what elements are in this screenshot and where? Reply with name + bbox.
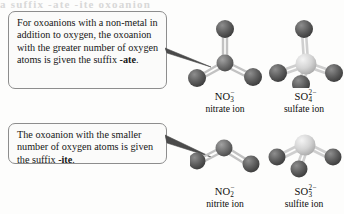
oxygen-atom (269, 64, 287, 82)
nitrate-label-block: NO−3 nitrate ion (185, 89, 265, 114)
nitrogen-atom (217, 55, 234, 72)
sulfite-subscript: 3 (308, 189, 312, 201)
nitrogen-atom (216, 140, 233, 157)
sulfate-ion-model (268, 16, 344, 88)
oxygen-atom (295, 20, 313, 38)
oxygen-atom (190, 153, 206, 170)
sulfite-ion-name: sulfite ion (264, 198, 344, 209)
sulfate-formula: SO2−4 (264, 89, 344, 103)
nitrate-ion-name: nitrate ion (185, 103, 265, 114)
oxygen-atom (292, 75, 310, 88)
sulfite-formula: SO2−3 (264, 184, 344, 198)
nitrate-formula: NO−3 (185, 89, 265, 103)
oxygen-atom (269, 149, 286, 166)
figure-root: a suffix -ate -ite oxoanion For oxoanion… (0, 0, 344, 214)
callout-ite-text: The oxoanion with the smaller number of … (17, 129, 153, 165)
oxygen-atom (325, 149, 342, 166)
oxygen-atom (325, 64, 343, 82)
sulfur-atom (295, 135, 316, 156)
callout-ate-period: . (136, 54, 139, 65)
nitrite-subscript: 2 (230, 189, 234, 201)
callout-ite-suffix: -ite (58, 154, 72, 165)
sulfate-ion-name: sulfate ion (264, 103, 344, 114)
sulfate-subscript: 4 (308, 94, 312, 106)
callout-box-ate: For oxoanions with a non-metal in additi… (8, 11, 167, 89)
nitrite-formula: NO−2 (185, 184, 265, 198)
callout-ate-suffix: -ate (120, 54, 136, 65)
oxygen-atom (188, 69, 206, 87)
callout-box-ite: The oxoanion with the smaller number of … (8, 123, 167, 164)
nitrate-subscript: 3 (230, 94, 234, 106)
oxygen-atom (244, 68, 262, 86)
nitrite-ion-name: nitrite ion (185, 198, 265, 209)
sulfur-atom (296, 54, 317, 75)
sulfite-label-block: SO2−3 sulfite ion (264, 184, 344, 209)
nitrate-formula-main: NO (215, 91, 231, 102)
sulfate-label-block: SO2−4 sulfate ion (264, 89, 344, 114)
nitrite-label-block: NO−2 nitrite ion (185, 184, 265, 209)
nitrate-ion-model (188, 16, 264, 88)
oxygen-atom (216, 20, 234, 38)
sulfite-ion-model (268, 128, 344, 182)
nitrite-ion-model (190, 135, 262, 181)
sulfite-formula-main: SO (295, 186, 309, 197)
sulfate-formula-main: SO (295, 91, 309, 102)
callout-ite-period: . (72, 154, 75, 165)
nitrite-formula-main: NO (215, 186, 231, 197)
oxygen-atom (243, 156, 260, 173)
top-text-remnant: a suffix -ate -ite oxoanion (0, 0, 344, 9)
oxygen-atom (291, 161, 308, 178)
